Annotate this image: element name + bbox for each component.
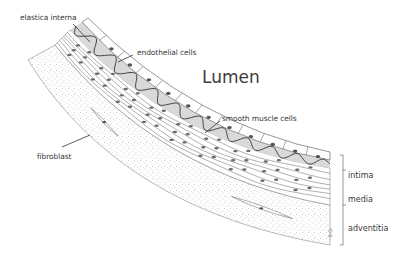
smooth-muscle-nucleus: [198, 154, 202, 156]
label-elastica-interna: elastica interna: [20, 14, 76, 22]
smooth-muscle-nucleus: [128, 106, 132, 108]
smooth-muscle-nucleus: [76, 44, 80, 46]
endothelial-nucleus: [147, 78, 152, 81]
endothelial-nucleus: [227, 126, 232, 129]
pointer-fibroblast: [62, 135, 90, 147]
smooth-muscle-nucleus: [103, 84, 107, 86]
smooth-muscle-nucleus: [277, 159, 281, 161]
smooth-muscle-nucleus: [201, 146, 205, 148]
smooth-muscle-nucleus: [274, 179, 278, 181]
smooth-muscle-nucleus: [275, 169, 279, 171]
lumen-title: Lumen: [202, 69, 260, 86]
smooth-muscle-nucleus: [260, 180, 264, 182]
smooth-muscle-nucleus: [95, 73, 99, 75]
endothelial-nucleus: [293, 149, 298, 152]
smooth-muscle-nucleus: [91, 78, 95, 80]
smooth-muscle-nucleus: [233, 150, 237, 152]
smooth-muscle-nucleus: [107, 79, 111, 81]
smooth-muscle-nucleus: [244, 159, 248, 161]
smooth-muscle-nucleus: [212, 156, 216, 158]
smooth-muscle-nucleus: [145, 114, 149, 116]
smooth-muscle-nucleus: [149, 106, 153, 108]
smooth-muscle-nucleus: [67, 54, 71, 56]
smooth-muscle-nucleus: [154, 124, 158, 126]
smooth-muscle-nucleus: [111, 73, 115, 75]
smooth-muscle-nucleus: [182, 141, 186, 143]
smooth-muscle-nucleus: [262, 170, 266, 172]
layer-bracket: [340, 155, 346, 245]
label-smooth-muscle-cells: smooth muscle cells: [222, 115, 297, 123]
smooth-muscle-nucleus: [264, 160, 268, 162]
smooth-muscle-nucleus: [242, 168, 246, 170]
label-intima: intima: [348, 172, 373, 180]
endothelial-nucleus: [109, 47, 114, 50]
smooth-muscle-nucleus: [189, 125, 193, 127]
smooth-muscle-nucleus: [308, 176, 312, 178]
endothelial-nucleus: [270, 143, 275, 146]
smooth-muscle-nucleus: [176, 123, 180, 125]
endothelial-nucleus: [128, 63, 133, 66]
smooth-muscle-nucleus: [185, 133, 189, 135]
smooth-muscle-nucleus: [217, 138, 221, 140]
smooth-muscle-nucleus: [71, 49, 75, 51]
label-adventitia: adventitia: [348, 225, 388, 233]
smooth-muscle-nucleus: [307, 187, 311, 189]
smooth-muscle-nucleus: [173, 131, 177, 133]
smooth-muscle-nucleus: [132, 99, 136, 101]
endothelial-nucleus: [249, 135, 254, 138]
smooth-muscle-nucleus: [214, 147, 218, 149]
smooth-muscle-nucleus: [294, 179, 298, 181]
smooth-muscle-nucleus: [231, 159, 235, 161]
smooth-muscle-nucleus: [87, 51, 91, 53]
endothelial-nucleus: [206, 116, 211, 119]
smooth-muscle-nucleus: [116, 101, 120, 103]
smooth-muscle-nucleus: [162, 110, 166, 112]
smooth-muscle-nucleus: [295, 169, 299, 171]
endothelial-nucleus: [166, 92, 171, 95]
label-fibroblast: fibroblast: [37, 153, 71, 161]
endothelial-nucleus: [186, 104, 191, 107]
endothelial-nucleus: [316, 155, 321, 158]
smooth-muscle-nucleus: [169, 139, 173, 141]
label-media: media: [348, 196, 373, 204]
artery-wall-diagram: [0, 0, 405, 258]
smooth-muscle-nucleus: [142, 121, 146, 123]
smooth-muscle-nucleus: [120, 94, 124, 96]
smooth-muscle-nucleus: [99, 67, 103, 69]
smooth-muscle-nucleus: [246, 150, 250, 152]
smooth-muscle-nucleus: [83, 56, 87, 58]
smooth-muscle-nucleus: [204, 138, 208, 140]
artist-signature: S.G.: [328, 227, 333, 237]
label-endothelial-cells: endothelial cells: [137, 49, 196, 57]
smooth-muscle-nucleus: [229, 168, 233, 170]
smooth-muscle-nucleus: [158, 117, 162, 119]
smooth-muscle-nucleus: [308, 166, 312, 168]
smooth-muscle-nucleus: [293, 189, 297, 191]
fibroblast-nucleus: [259, 207, 263, 209]
smooth-muscle-nucleus: [136, 92, 140, 94]
smooth-muscle-nucleus: [124, 88, 128, 90]
fibroblast-nucleus: [102, 121, 106, 123]
smooth-muscle-nucleus: [79, 61, 83, 63]
